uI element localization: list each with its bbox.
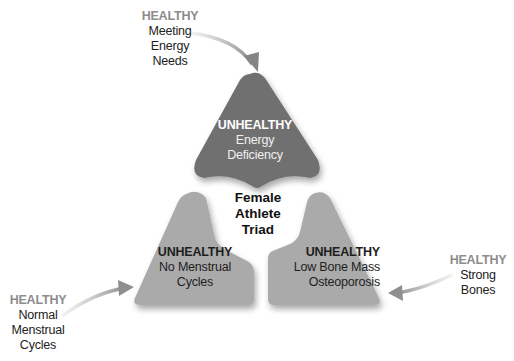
unhealthy-heading: UNHEALTHY <box>205 118 305 133</box>
no-menstrual-cycles-label: UNHEALTHY No Menstrual Cycles <box>145 245 245 290</box>
low-bone-mass-label: UNHEALTHY Low Bone Mass Osteoporosis <box>280 245 380 290</box>
label-line: Deficiency <box>205 148 305 163</box>
label-line: Osteoporosis <box>280 275 380 290</box>
label-line: Cycles <box>8 338 68 353</box>
title-line: Triad <box>222 222 294 238</box>
label-line: Menstrual <box>8 323 68 338</box>
arrow-energy-icon <box>190 33 259 72</box>
arrow-menstrual-icon <box>62 280 134 316</box>
healthy-bones-label: HEALTHY Strong Bones <box>448 253 508 298</box>
healthy-heading: HEALTHY <box>140 9 200 24</box>
label-line: Normal <box>8 308 68 323</box>
label-line: Low Bone Mass <box>280 260 380 275</box>
diagram-title: Female Athlete Triad <box>222 190 294 238</box>
label-line: Strong <box>448 268 508 283</box>
label-line: Energy <box>205 133 305 148</box>
label-line: Bones <box>448 283 508 298</box>
label-line: Energy <box>140 39 200 54</box>
title-line: Athlete <box>222 206 294 222</box>
label-line: Needs <box>140 54 200 69</box>
healthy-energy-label: HEALTHY Meeting Energy Needs <box>140 9 200 69</box>
arrow-bones-icon <box>388 275 452 301</box>
unhealthy-heading: UNHEALTHY <box>145 245 245 260</box>
label-line: No Menstrual <box>145 260 245 275</box>
label-line: Cycles <box>145 275 245 290</box>
unhealthy-heading: UNHEALTHY <box>280 245 380 260</box>
healthy-heading: HEALTHY <box>448 253 508 268</box>
female-athlete-triad-diagram: UNHEALTHY Energy Deficiency UNHEALTHY No… <box>0 0 514 361</box>
energy-deficiency-label: UNHEALTHY Energy Deficiency <box>205 118 305 163</box>
label-line: Meeting <box>140 24 200 39</box>
healthy-heading: HEALTHY <box>8 293 68 308</box>
diagram-shapes <box>0 0 514 361</box>
title-line: Female <box>222 190 294 206</box>
healthy-menstrual-label: HEALTHY Normal Menstrual Cycles <box>8 293 68 353</box>
